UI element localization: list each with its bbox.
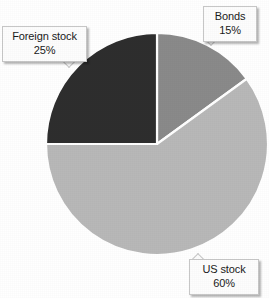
foreign-stock-callout-label: Foreign stock 25%	[2, 26, 87, 62]
pie-chart-figure: Bonds 15% Foreign stock 25% US stock 60%	[0, 0, 269, 298]
us-stock-callout-label: US stock 60%	[189, 259, 259, 295]
foreign-stock-label-name: Foreign stock	[9, 30, 80, 44]
pie-slice-group	[46, 33, 268, 255]
us-stock-label-name: US stock	[196, 263, 252, 277]
us-stock-label-percent: 60%	[196, 277, 252, 291]
bonds-callout-label: Bonds 15%	[203, 6, 257, 42]
foreign-stock-label-percent: 25%	[9, 44, 80, 58]
bonds-label-percent: 15%	[210, 24, 250, 38]
bonds-label-name: Bonds	[210, 10, 250, 24]
